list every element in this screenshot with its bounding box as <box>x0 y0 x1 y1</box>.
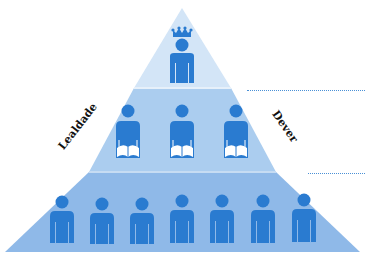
pyramid-diagram: Lealdade Dever <box>0 0 365 262</box>
pyramid-shape <box>0 0 365 262</box>
dotted-leader-line-middle <box>308 173 365 174</box>
crowned-person-icon <box>170 26 194 83</box>
dotted-leader-line-top <box>247 90 365 91</box>
